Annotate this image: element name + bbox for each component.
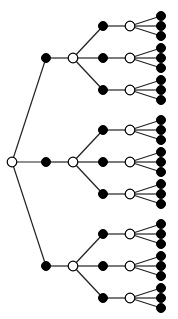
leaf-node (157, 96, 166, 105)
leaf-node (157, 86, 166, 95)
leaf-node (157, 180, 166, 189)
leaf-node (157, 76, 166, 85)
leaf-node (157, 262, 166, 271)
leaf-node (157, 284, 166, 293)
level3-node (99, 262, 108, 271)
leaf-node (157, 190, 166, 199)
leaf-node (157, 200, 166, 209)
level3-node (99, 230, 108, 239)
tree-edge (73, 234, 103, 266)
leaf-node (157, 44, 166, 53)
level1-node (42, 54, 51, 63)
level1-node (42, 158, 51, 167)
tree-edge (73, 130, 103, 162)
leaf-node (157, 220, 166, 229)
level3-node (99, 126, 108, 135)
level3-node (99, 158, 108, 167)
leaf-node (157, 32, 166, 41)
level4-node (125, 157, 135, 167)
leaf-node (157, 272, 166, 281)
level2-node (68, 261, 78, 271)
leaf-node (157, 12, 166, 21)
tree-edge (73, 58, 103, 90)
tree-diagram (0, 0, 178, 319)
leaf-node (157, 240, 166, 249)
leaf-node (157, 22, 166, 31)
leaf-node (157, 54, 166, 63)
leaf-node (157, 64, 166, 73)
level3-node (99, 22, 108, 31)
level4-node (125, 21, 135, 31)
level3-node (99, 190, 108, 199)
leaf-node (157, 126, 166, 135)
level4-node (125, 261, 135, 271)
leaf-node (157, 148, 166, 157)
tree-svg (0, 0, 178, 319)
level4-node (125, 293, 135, 303)
level2-node (68, 53, 78, 63)
leaf-node (157, 158, 166, 167)
leaf-node (157, 230, 166, 239)
level3-node (99, 86, 108, 95)
tree-edge (73, 26, 103, 58)
tree-edge (73, 266, 103, 298)
level1-node (42, 262, 51, 271)
leaf-node (157, 136, 166, 145)
level4-node (125, 53, 135, 63)
leaf-node (157, 304, 166, 313)
level4-node (125, 229, 135, 239)
level3-node (99, 294, 108, 303)
leaf-node (157, 116, 166, 125)
leaf-node (157, 294, 166, 303)
level4-node (125, 189, 135, 199)
leaf-node (157, 168, 166, 177)
level4-node (125, 85, 135, 95)
edges (12, 16, 161, 308)
level2-node (68, 157, 78, 167)
level3-node (99, 54, 108, 63)
root-node (7, 157, 17, 167)
leaf-node (157, 252, 166, 261)
tree-edge (12, 162, 46, 266)
tree-edge (73, 162, 103, 194)
tree-edge (12, 58, 46, 162)
level4-node (125, 125, 135, 135)
